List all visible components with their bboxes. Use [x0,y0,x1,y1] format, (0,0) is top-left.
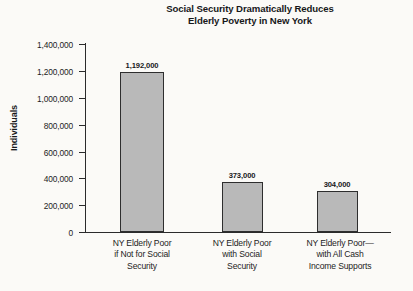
y-tick-mark [79,125,85,126]
y-tick-mark [79,178,85,179]
chart-title: Social Security Dramatically Reduces Eld… [100,3,400,27]
bar-value-label: 1,192,000 [102,62,182,70]
y-tick-label: 0 [0,229,73,237]
y-tick-mark [79,205,85,206]
x-category-label-line: Security [193,261,291,272]
bar-chart-figure: Social Security Dramatically Reduces Eld… [0,0,413,291]
y-tick-label: 800,000 [0,122,73,130]
x-category-label-line: NY Elderly Poor [93,238,191,249]
chart-title-line-1: Social Security Dramatically Reduces [100,3,400,15]
x-category-label-line: Security [93,261,191,272]
x-category-label: NY Elderly Poor— with All Cash Income Su… [288,238,392,272]
bar-ny-elderly-poor-with-all-cash-income-supports [317,191,358,232]
y-axis-line [85,43,86,233]
x-category-label-line: with Social [193,249,291,260]
x-category-label: NY Elderly Poor with Social Security [193,238,291,272]
y-tick-mark [79,44,85,45]
y-tick-label: 400,000 [0,175,73,183]
y-tick-label: 1,400,000 [0,41,73,49]
y-tick-mark [79,98,85,99]
y-tick-label: 600,000 [0,149,73,157]
bar-ny-elderly-poor-if-not-for-social-security [120,72,164,232]
x-axis-line [85,232,391,233]
y-tick-mark [79,71,85,72]
x-category-label: NY Elderly Poor if Not for Social Securi… [93,238,191,272]
bar-value-label: 304,000 [297,181,377,189]
y-tick-label: 200,000 [0,202,73,210]
bar-ny-elderly-poor-with-social-security [222,182,263,232]
bar-value-label: 373,000 [202,172,282,180]
y-tick-label: 1,000,000 [0,95,73,103]
x-category-label-line: if Not for Social [93,249,191,260]
y-tick-mark [79,152,85,153]
x-category-label-line: NY Elderly Poor [193,238,291,249]
y-tick-mark [79,232,85,233]
chart-title-line-2: Elderly Poverty in New York [100,15,400,27]
x-category-label-line: NY Elderly Poor— [288,238,392,249]
y-tick-label: 1,200,000 [0,68,73,76]
x-category-label-line: with All Cash [288,249,392,260]
x-category-label-line: Income Supports [288,261,392,272]
